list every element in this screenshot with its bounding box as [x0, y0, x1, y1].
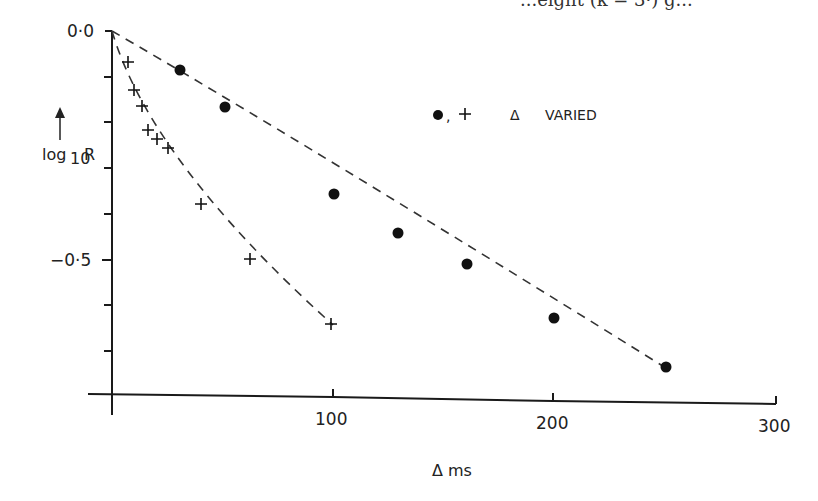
dots-series	[175, 65, 672, 373]
svg-text:R: R	[84, 145, 95, 164]
header-fragment: ...eight (k = 3·) g...	[520, 0, 693, 10]
crosses-series	[122, 56, 337, 330]
arrow-head-icon	[55, 107, 65, 118]
y-axis	[102, 31, 112, 415]
legend-varied: VARIED	[545, 107, 597, 123]
svg-text:,: ,	[446, 108, 450, 124]
legend-dot-icon	[433, 110, 443, 120]
y-axis-label: log 10 R	[42, 107, 95, 168]
x-axis-label: Δ ms	[432, 461, 472, 480]
y-tick-0: 0·0	[67, 21, 94, 41]
legend-delta: Δ	[510, 107, 520, 123]
x-tick-100: 100	[315, 409, 347, 429]
legend: ●, + , Δ VARIED	[433, 107, 597, 124]
y-tick-neg-0-5: −0·5	[50, 250, 91, 270]
crosses-fit-line	[112, 31, 333, 325]
dots-fit-line	[112, 31, 666, 368]
legend-cross-icon	[459, 108, 471, 120]
x-tick-200: 200	[536, 413, 568, 433]
x-axis	[88, 389, 776, 404]
x-tick-300: 300	[758, 416, 790, 436]
svg-text:log: log	[42, 145, 66, 164]
chart: ...eight (k = 3·) g... 0·0 −0·5 100 200 …	[0, 0, 818, 501]
